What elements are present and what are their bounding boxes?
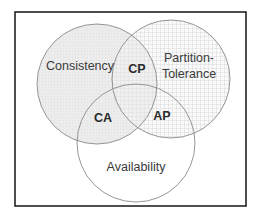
label-partition-line2: Tolerance — [162, 67, 216, 81]
label-ap: AP — [153, 109, 170, 123]
label-ca: CA — [94, 111, 112, 125]
label-availability: Availability — [107, 160, 167, 174]
label-cp: CP — [128, 62, 145, 76]
cap-theorem-venn-diagram: Consistency Partition- Tolerance Availab… — [0, 0, 260, 220]
label-consistency: Consistency — [46, 59, 115, 73]
label-partition-line1: Partition- — [164, 51, 214, 65]
